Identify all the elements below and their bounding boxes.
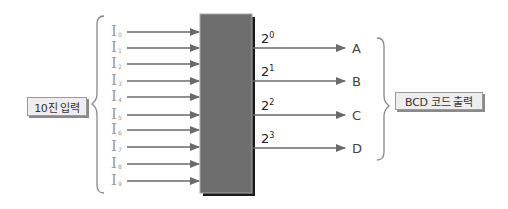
decimal-input-label: 10진 입력 xyxy=(27,97,87,116)
output-weight-2: 22 xyxy=(261,98,274,113)
bcd-output-label: BCD 코드 출력 xyxy=(395,92,483,110)
output-letter-c: C xyxy=(352,108,361,123)
output-letter-a: A xyxy=(352,41,361,56)
output-weight-3: 23 xyxy=(261,131,274,146)
output-letter-d: D xyxy=(352,141,362,156)
output-weight-1: 21 xyxy=(261,64,274,79)
input-brace xyxy=(92,16,104,193)
output-letter-b: B xyxy=(352,74,361,89)
output-brace xyxy=(377,38,389,160)
encoder-block xyxy=(200,14,252,193)
input-label-9: I9 xyxy=(111,173,122,191)
output-weight-0: 20 xyxy=(261,31,274,46)
